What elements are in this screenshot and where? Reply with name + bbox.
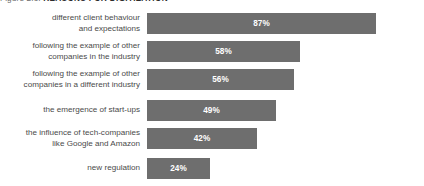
bar-row: new regulation24% — [0, 158, 424, 179]
bar-chart: Figure 2.3: REASONS FOR DIGITIZATION dif… — [0, 0, 424, 186]
bar-row-label: the emergence of start-ups — [0, 105, 140, 115]
bar-row-label-line: following the example of other — [0, 69, 140, 79]
bar-value-label: 24% — [147, 158, 210, 179]
bar-row-label-line: and expectations — [0, 24, 140, 34]
bar-row-label-line: the influence of tech-companies — [0, 128, 140, 138]
bar-track: 58% — [147, 41, 410, 62]
bar-track: 42% — [147, 128, 410, 149]
bar-row: the emergence of start-ups49% — [0, 100, 424, 121]
bar-row-label-line: the emergence of start-ups — [0, 105, 140, 115]
bar-row-label-line: companies in a different industry — [0, 80, 140, 90]
bar-row-label-line: companies in the industry — [0, 52, 140, 62]
bar-track: 24% — [147, 158, 410, 179]
bar-track: 56% — [147, 69, 410, 90]
bar-value-label: 49% — [147, 100, 276, 121]
bar-row-label-line: like Google and Amazon — [0, 139, 140, 149]
bar-row-label: following the example of othercompanies … — [0, 69, 140, 89]
bar-value-label: 87% — [147, 13, 376, 34]
chart-plot-area: different client behaviourand expectatio… — [0, 0, 424, 186]
bar-value-label: 58% — [147, 41, 300, 62]
bar-row-label: the influence of tech-companieslike Goog… — [0, 128, 140, 148]
bar-value-label: 42% — [147, 128, 257, 149]
bar-row-label-line: new regulation — [0, 163, 140, 173]
bar-row: the influence of tech-companieslike Goog… — [0, 128, 424, 149]
bar-row: following the example of othercompanies … — [0, 41, 424, 62]
bar-track: 87% — [147, 13, 410, 34]
bar-row-label: following the example of othercompanies … — [0, 41, 140, 61]
bar-row-label: different client behaviourand expectatio… — [0, 13, 140, 33]
bar-row-label: new regulation — [0, 163, 140, 173]
bar-row: different client behaviourand expectatio… — [0, 13, 424, 34]
bar-row-label-line: following the example of other — [0, 41, 140, 51]
bar-row-label-line: different client behaviour — [0, 13, 140, 23]
bar-value-label: 56% — [147, 69, 294, 90]
bar-track: 49% — [147, 100, 410, 121]
bar-row: following the example of othercompanies … — [0, 69, 424, 90]
